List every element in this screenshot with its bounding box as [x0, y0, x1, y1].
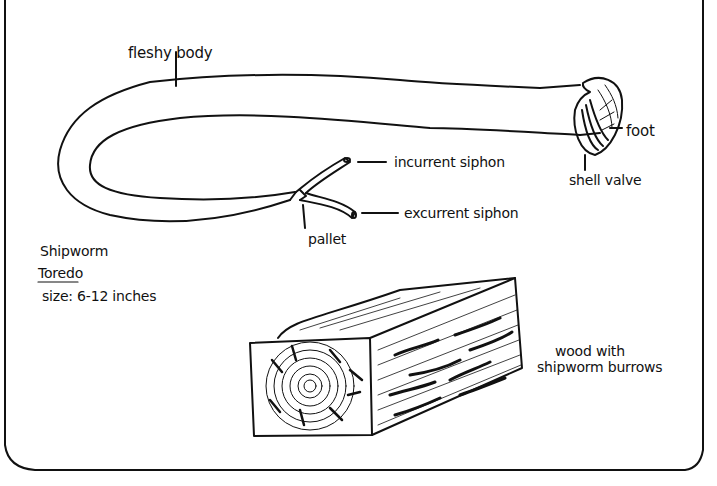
label-foot: foot [626, 122, 655, 140]
label-pallet: pallet [308, 231, 346, 247]
label-incurrent-siphon: incurrent siphon [394, 154, 505, 170]
pallet-pointer [303, 205, 305, 228]
label-shell-valve: shell valve [569, 172, 641, 188]
shell-valve-drawing [574, 78, 622, 155]
label-excurrent-siphon: excurrent siphon [404, 205, 519, 221]
fleshy-body-outer [58, 75, 540, 221]
shipworm-illustration: fleshy body foot shell valve incurrent s… [0, 0, 717, 486]
genus-name: Toredo [38, 265, 83, 281]
siphons-drawing [296, 158, 356, 218]
frame-border [5, 0, 703, 470]
wood-block-drawing [250, 278, 522, 436]
fleshy-body-inner [90, 115, 580, 199]
size-text: size: 6-12 inches [42, 288, 156, 304]
subject-name: Shipworm [40, 243, 108, 259]
label-fleshy-body: fleshy body [128, 44, 213, 62]
label-wood-line2: shipworm burrows [537, 359, 662, 375]
label-wood-line1: wood with [555, 343, 625, 359]
